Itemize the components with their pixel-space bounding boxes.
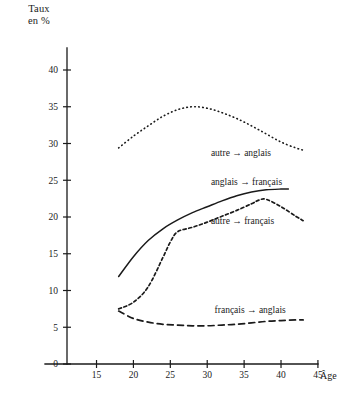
x-tick-label: 30 [202, 370, 212, 380]
y-tick-label: 25 [49, 176, 59, 186]
x-tick-label: 35 [239, 370, 249, 380]
series-label: autre → français [211, 216, 275, 226]
series-labels: autre → anglaisanglais → françaisautre →… [211, 148, 286, 315]
series-line [119, 107, 304, 150]
y-tick-label: 5 [53, 323, 58, 333]
y-tick-label: 15 [49, 249, 59, 259]
series-label: autre → anglais [211, 148, 271, 158]
x-axis-title: Âge [320, 370, 337, 381]
y-tick-label: 30 [49, 139, 59, 149]
plot-area: 0510152025303540 15202530354045 autre → … [0, 0, 341, 395]
series-label: français → anglais [215, 305, 287, 315]
chart-figure: Taux en % 0510152025303540 1520253035404… [0, 0, 341, 395]
y-tick-label: 10 [49, 286, 59, 296]
axes [45, 48, 318, 364]
x-tick-label: 20 [129, 370, 139, 380]
x-tick-label: 15 [92, 370, 102, 380]
x-axis-ticks: 15202530354045 [92, 360, 323, 380]
series-line [119, 189, 289, 277]
y-tick-label: 35 [49, 102, 59, 112]
series-label: anglais → français [211, 177, 283, 187]
y-tick-label: 40 [49, 65, 59, 75]
x-tick-label: 25 [166, 370, 176, 380]
y-tick-label: 20 [49, 212, 59, 222]
x-tick-label: 40 [276, 370, 286, 380]
y-tick-label: 0 [53, 359, 58, 369]
